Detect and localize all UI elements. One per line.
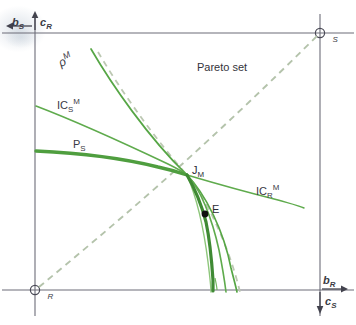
branch-bottom-tick <box>215 278 217 290</box>
pareto-set-curve <box>39 36 317 287</box>
origin-markers <box>30 28 324 294</box>
diagram-canvas <box>0 0 356 325</box>
axis-label-bs: bS <box>12 17 24 31</box>
rho-m-curve <box>91 49 237 292</box>
arrow-br-head <box>341 286 348 293</box>
edgeworth-box-figure: bS cR bR cS OS OR ρM ICSM PS ICRM Pareto… <box>0 0 356 325</box>
origin-label-r: OR <box>31 283 45 297</box>
axis-label-cs: cS <box>325 296 336 310</box>
axis-label-cr: cR <box>40 17 52 31</box>
annotation-pareto-set: Pareto set <box>197 62 247 73</box>
curve-label-ic-s-m: ICSM <box>57 98 80 114</box>
point-e-marker <box>202 211 209 218</box>
arrow-cs-head <box>317 306 324 314</box>
axis-label-br: bR <box>323 275 335 289</box>
rho-m-dashed-curve <box>98 52 240 292</box>
point-label-j-m: JM <box>192 165 204 179</box>
arrow-cr-head <box>32 11 39 18</box>
point-label-e: E <box>212 204 219 215</box>
origin-label-s: OS <box>316 26 330 40</box>
curve-label-ic-r-m: ICRM <box>256 184 279 200</box>
curve-label-p-s: PS <box>73 139 86 153</box>
